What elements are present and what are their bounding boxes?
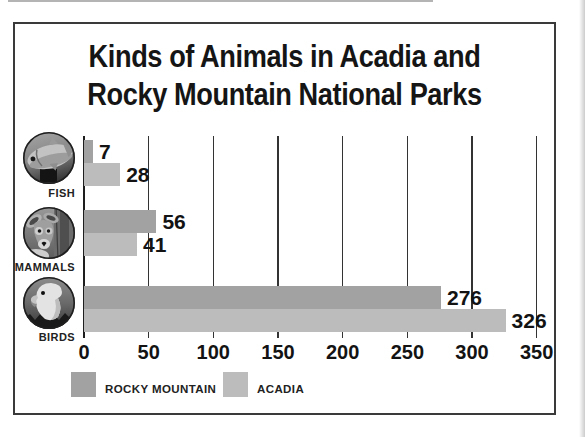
- gridline: [536, 136, 538, 338]
- bar-value-rocky-mountain-mammals: 56: [162, 210, 185, 233]
- deer-photo: [22, 206, 76, 260]
- bar-acadia-birds: [84, 309, 506, 332]
- legend-item-rocky-mountain: ROCKY MOUNTAIN: [71, 372, 216, 397]
- eagle-photo: [22, 276, 76, 330]
- bar-acadia-fish: [84, 163, 120, 186]
- chart-title: Kinds of Animals in Acadia and Rocky Mou…: [15, 37, 554, 113]
- x-tick-label: 350: [507, 341, 567, 364]
- x-tick-label: 100: [183, 341, 243, 364]
- screenshot-root: Kinds of Animals in Acadia and Rocky Mou…: [0, 0, 585, 437]
- bar-value-acadia-birds: 326: [512, 309, 547, 332]
- legend-swatch-rocky-mountain: [71, 372, 96, 397]
- legend-label-acadia: ACADIA: [257, 383, 304, 395]
- x-tick-label: 250: [377, 341, 437, 364]
- x-tick-label: 200: [313, 341, 373, 364]
- x-tick-label: 0: [54, 341, 114, 364]
- bar-rocky-mountain-fish: [84, 140, 93, 163]
- category-label-mammals: MAMMALS: [5, 261, 75, 273]
- bar-value-rocky-mountain-birds: 276: [447, 286, 482, 309]
- category-label-fish: FISH: [5, 187, 75, 199]
- chart-title-line1: Kinds of Animals in Acadia and: [55, 37, 513, 75]
- bar-value-rocky-mountain-fish: 7: [99, 140, 111, 163]
- x-tick-label: 300: [442, 341, 502, 364]
- legend-label-rocky-mountain: ROCKY MOUNTAIN: [105, 383, 216, 395]
- bar-value-acadia-mammals: 41: [143, 233, 166, 256]
- scan-artifact-right: [579, 0, 585, 437]
- chart-legend: ROCKY MOUNTAIN ACADIA: [15, 372, 554, 400]
- bar-value-acadia-fish: 28: [126, 163, 149, 186]
- scan-artifact-top: [8, 0, 433, 2]
- x-tick-label: 50: [119, 341, 179, 364]
- bar-rocky-mountain-mammals: [84, 210, 156, 233]
- fish-photo: [22, 131, 76, 185]
- chart-title-line2: Rocky Mountain National Parks: [55, 75, 513, 113]
- bar-acadia-mammals: [84, 233, 137, 256]
- category-label-birds: BIRDS: [5, 331, 75, 343]
- bar-rocky-mountain-birds: [84, 286, 441, 309]
- legend-swatch-acadia: [223, 372, 248, 397]
- legend-item-acadia: ACADIA: [223, 372, 304, 397]
- chart-frame: Kinds of Animals in Acadia and Rocky Mou…: [13, 22, 556, 415]
- x-tick-label: 150: [248, 341, 308, 364]
